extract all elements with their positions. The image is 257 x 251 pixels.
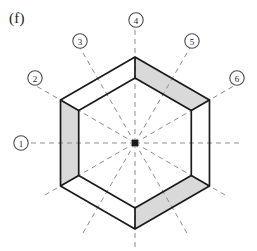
axis-label-text-2: 2 [33,74,38,84]
axis-label-text-5: 5 [190,37,195,47]
axis-label-text-4: 4 [134,16,139,26]
axis-label-text-6: 6 [235,74,240,84]
axis-label-2[interactable]: 2 [28,71,42,85]
hexagon-radar-diagram: 123456 [0,0,257,251]
axis-label-3[interactable]: 3 [73,34,87,48]
axis-label-4[interactable]: 4 [129,13,143,27]
axis-label-text-1: 1 [19,139,24,149]
radial-axis-line [45,143,135,195]
axis-label-text-3: 3 [78,37,83,47]
radial-axis-lines [22,30,239,247]
radial-axis-line [83,143,135,233]
center-dot [132,140,139,147]
axis-label-6[interactable]: 6 [230,71,244,85]
figure-container: (f) 123456 [0,0,257,251]
axis-label-1[interactable]: 1 [14,136,28,150]
radial-axis-line [37,87,135,144]
axis-label-5[interactable]: 5 [185,34,199,48]
